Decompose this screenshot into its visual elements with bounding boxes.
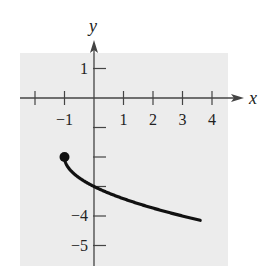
closed-endpoint-dot <box>60 152 70 162</box>
y-axis-label: y <box>87 16 97 36</box>
x-tick-label: 3 <box>179 111 187 128</box>
x-tick-label: −1 <box>56 111 73 128</box>
x-tick-label: 4 <box>208 111 216 128</box>
y-tick-label: −4 <box>71 207 88 224</box>
x-axis-label: x <box>248 88 257 108</box>
x-tick-label: 1 <box>120 111 128 128</box>
y-tick-label: −5 <box>71 237 88 254</box>
function-graph: −112341−4−5 x y <box>0 0 270 275</box>
y-tick-label: 1 <box>80 60 88 77</box>
x-tick-label: 2 <box>149 111 157 128</box>
plot-background <box>20 53 228 266</box>
